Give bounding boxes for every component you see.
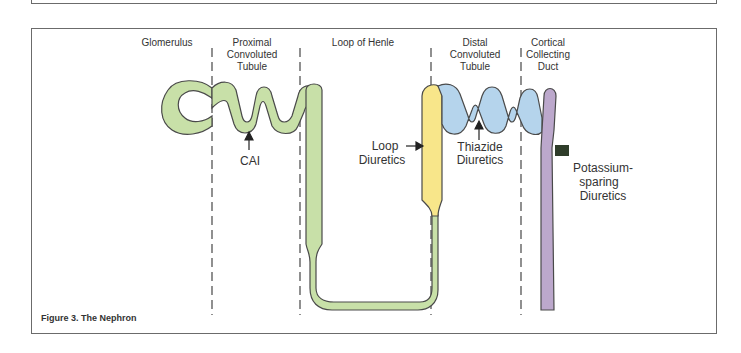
potassium-sparing-blocker <box>555 145 569 156</box>
svg-text:Tubule: Tubule <box>460 61 491 72</box>
svg-text:Convoluted: Convoluted <box>227 49 278 60</box>
svg-text:Thiazide: Thiazide <box>457 140 503 154</box>
svg-text:Convoluted: Convoluted <box>450 49 501 60</box>
svg-text:Duct: Duct <box>538 61 559 72</box>
svg-text:Glomerulus: Glomerulus <box>141 37 192 48</box>
svg-text:Diuretics: Diuretics <box>580 189 627 203</box>
figure-caption: Figure 3. The Nephron <box>41 313 137 323</box>
distal-tubule-shape <box>438 84 542 134</box>
svg-text:Cortical: Cortical <box>531 37 565 48</box>
segment-labels: Glomerulus Proximal Convoluted Tubule Lo… <box>141 37 570 72</box>
proximal-tubule-shape <box>212 82 312 133</box>
svg-text:Diuretics: Diuretics <box>457 153 504 167</box>
nephron-diagram: Glomerulus Proximal Convoluted Tubule Lo… <box>0 0 741 353</box>
svg-text:Potassium-: Potassium- <box>573 161 633 175</box>
thick-ascending-limb-shape <box>422 85 442 216</box>
svg-text:Tubule: Tubule <box>237 61 268 72</box>
glomerulus-shape <box>162 81 212 135</box>
svg-text:Proximal: Proximal <box>233 37 272 48</box>
svg-text:sparing: sparing <box>579 175 618 189</box>
segment-dividers <box>212 48 521 315</box>
svg-text:Loop: Loop <box>372 139 399 153</box>
svg-text:Collecting: Collecting <box>526 49 570 60</box>
svg-text:Distal: Distal <box>462 37 487 48</box>
collecting-duct-shape <box>541 89 556 311</box>
svg-text:Diuretics: Diuretics <box>359 153 406 167</box>
loop-of-henle-shape <box>306 84 438 310</box>
svg-text:Loop of Henle: Loop of Henle <box>332 37 395 48</box>
svg-text:CAI: CAI <box>240 154 260 168</box>
